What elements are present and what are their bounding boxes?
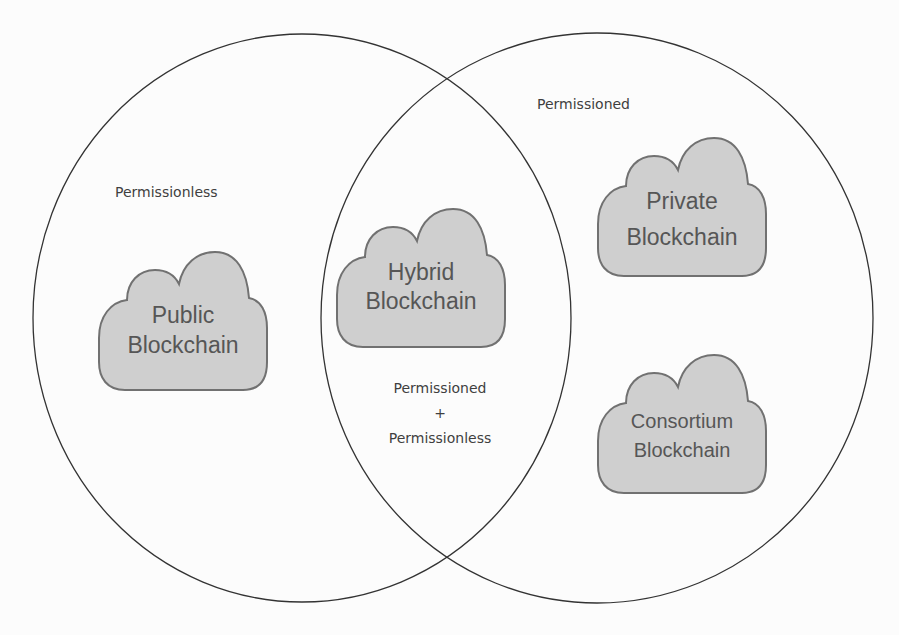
intersection-plus-sign: + bbox=[360, 401, 520, 426]
cloud-consortium-blockchain: Consortium Blockchain bbox=[598, 355, 766, 493]
venn-diagram-graphic: Public Blockchain Hybrid Blockchain Priv… bbox=[0, 0, 899, 635]
cloud-public-blockchain: Public Blockchain bbox=[99, 252, 267, 390]
cloud-public-line2: Blockchain bbox=[127, 332, 238, 358]
cloud-public-line1: Public bbox=[152, 302, 215, 328]
cloud-consortium-line1: Consortium bbox=[631, 410, 733, 432]
cloud-consortium-line2: Blockchain bbox=[634, 439, 731, 461]
intersection-label: Permissioned + Permissionless bbox=[360, 376, 520, 451]
permissioned-label: Permissioned bbox=[537, 97, 630, 111]
cloud-hybrid-line1: Hybrid bbox=[388, 259, 454, 285]
cloud-private-blockchain: Private Blockchain bbox=[598, 138, 766, 276]
intersection-line-permissionless: Permissionless bbox=[360, 426, 520, 451]
cloud-private-line2: Blockchain bbox=[626, 224, 737, 250]
cloud-hybrid-blockchain: Hybrid Blockchain bbox=[337, 209, 505, 347]
cloud-hybrid-line2: Blockchain bbox=[365, 288, 476, 314]
intersection-line-permissioned: Permissioned bbox=[360, 376, 520, 401]
blockchain-types-venn-diagram: Public Blockchain Hybrid Blockchain Priv… bbox=[0, 0, 899, 635]
cloud-private-line1: Private bbox=[646, 188, 718, 214]
permissionless-label: Permissionless bbox=[115, 185, 218, 199]
